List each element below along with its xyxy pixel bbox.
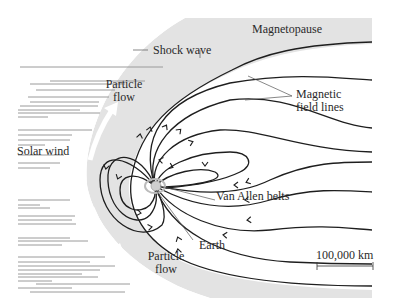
van-allen-belts-label: Van Allen belts xyxy=(216,189,290,203)
arrowhead-icon xyxy=(148,224,153,231)
particle-flow-top-label-2: flow xyxy=(113,90,135,104)
earth-label: Earth xyxy=(199,238,225,252)
arrowhead-icon xyxy=(162,124,169,130)
magnetic-field-lines-label-1: Magnetic xyxy=(296,87,341,101)
shock-wave-label: Shock wave xyxy=(153,43,211,57)
arrowhead-icon xyxy=(245,178,251,185)
particle-flow-bottom-label-1: Particle xyxy=(148,249,185,263)
solar-wind-label: Solar wind xyxy=(17,144,69,158)
magnetopause-label: Magnetopause xyxy=(252,22,322,36)
arrowhead-icon xyxy=(202,162,208,166)
particle-flow-top-label-1: Particle xyxy=(106,77,143,91)
scale-bar-label: 100,000 km xyxy=(316,248,374,262)
magnetic-field-lines-label-2: field lines xyxy=(296,100,344,114)
earth-group xyxy=(145,179,165,193)
arrowhead-icon xyxy=(175,236,182,242)
arrowhead-icon xyxy=(188,139,194,146)
particle-flow-bottom-label-2: flow xyxy=(155,262,177,276)
arrowhead-icon xyxy=(176,127,183,134)
field-line xyxy=(154,130,372,186)
magnetosphere-diagram: Shock wave Magnetopause Magnetic field l… xyxy=(0,0,393,304)
arrowhead-icon xyxy=(234,182,238,188)
field-line xyxy=(155,162,372,192)
earth-icon xyxy=(151,181,161,191)
arrowhead-icon xyxy=(247,217,252,223)
scale-bar: 100,000 km xyxy=(316,248,374,270)
